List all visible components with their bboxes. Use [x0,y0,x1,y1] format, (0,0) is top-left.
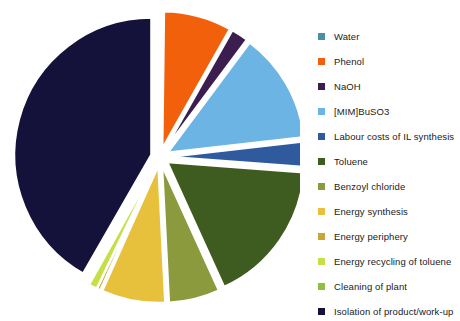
legend-item-label: Isolation of product/work-up [334,299,454,321]
pie-svg [0,0,300,312]
legend-swatch-icon [318,158,325,165]
legend-item-label: Energy synthesis [334,199,408,224]
legend-swatch-icon [318,108,325,115]
legend-swatch-icon [318,133,325,140]
legend-item-label: Toluene [334,149,368,174]
legend-item[interactable]: Energy synthesis [318,199,460,224]
legend-item[interactable]: Labour costs of IL synthesis [318,124,460,149]
legend-swatch-icon [318,58,325,65]
legend-item[interactable]: Benzoyl chloride [318,174,460,199]
legend-item[interactable]: Energy recycling of toluene [318,249,460,274]
legend-swatch-icon [318,208,325,215]
legend-item-label: Cleaning of plant [334,274,407,299]
legend-swatch-icon [318,33,325,40]
legend-swatch-icon [318,258,325,265]
pie-plot-area [0,0,300,312]
legend-item[interactable]: Toluene [318,149,460,174]
legend-item[interactable]: [MIM]BuSO3 [318,99,460,124]
legend-item[interactable]: Phenol [318,49,460,74]
legend-swatch-icon [318,308,325,315]
legend-item-label: Phenol [334,49,364,74]
legend-item-label: NaOH [334,74,361,99]
legend-item-label: [MIM]BuSO3 [334,99,389,124]
legend-item-label: Labour costs of IL synthesis [334,124,454,149]
legend-swatch-icon [318,183,325,190]
legend-item[interactable]: Water [318,24,460,49]
legend-item[interactable]: NaOH [318,74,460,99]
legend-item-label: Water [334,24,359,49]
pie-slice-group [14,11,300,303]
legend-item[interactable]: Cleaning of plant [318,274,460,299]
legend-item-label: Benzoyl chloride [334,174,405,199]
chart-legend: WaterPhenolNaOH[MIM]BuSO3Labour costs of… [300,0,460,312]
legend-item[interactable]: Isolation of product/work-up [318,299,460,321]
legend-swatch-icon [318,283,325,290]
legend-item[interactable]: Energy periphery [318,224,460,249]
legend-swatch-icon [318,83,325,90]
legend-swatch-icon [318,233,325,240]
legend-item-label: Energy recycling of toluene [334,249,451,274]
legend-item-label: Energy periphery [334,224,408,249]
